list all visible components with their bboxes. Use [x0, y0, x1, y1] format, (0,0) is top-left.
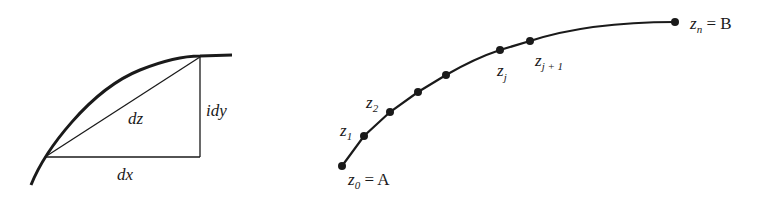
- label-idy: idy: [206, 101, 227, 120]
- point-a: [338, 162, 346, 170]
- partition-points: [338, 18, 679, 170]
- chord-dz: [45, 57, 200, 157]
- point-z1: [360, 132, 368, 140]
- left-figure: dz idy dx: [31, 55, 232, 185]
- label-z1: z1: [339, 121, 352, 142]
- point: [442, 71, 450, 79]
- point-zj: [496, 46, 504, 54]
- point-zj1: [526, 37, 534, 45]
- label-z0: z0 = A: [347, 170, 390, 191]
- diagram-canvas: dz idy dx z0 = A z1 z2 zj zj + 1 zn = B: [0, 0, 767, 202]
- label-zj1: zj + 1: [534, 51, 563, 72]
- right-figure: z0 = A z1 z2 zj zj + 1 zn = B: [338, 14, 732, 191]
- point: [414, 88, 422, 96]
- label-zj: zj: [496, 61, 507, 83]
- point-z2: [386, 108, 394, 116]
- label-zn: zn = B: [689, 14, 732, 35]
- label-z2: z2: [365, 93, 379, 114]
- contour-path: [342, 22, 675, 166]
- point-b: [671, 18, 679, 26]
- label-dx: dx: [117, 165, 134, 184]
- label-dz: dz: [128, 109, 144, 128]
